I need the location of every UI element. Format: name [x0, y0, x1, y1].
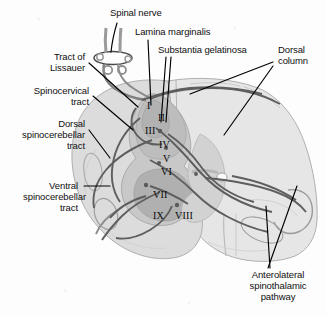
label-ventral-spinocerebellar-line3: tract: [0, 203, 78, 214]
label-dorsal-column-line1: Dorsal: [278, 45, 305, 56]
lamina-numeral-vi: VI: [161, 167, 172, 177]
label-spinocervical-tract-line2: tract: [0, 97, 89, 108]
label-anterolateral-line1: Anterolateral: [234, 270, 322, 281]
lamina-numeral-vii: VII: [153, 190, 167, 200]
label-ventral-spinocerebellar-line1: Ventral: [0, 181, 78, 192]
label-anterolateral-line2: spinothalamic: [234, 281, 322, 292]
label-dorsal-column-line2: column: [278, 56, 308, 67]
label-tract-of-lissauer-line1: Tract of: [0, 52, 85, 63]
label-spinocervical-tract-line1: Spinocervical: [0, 86, 89, 97]
label-dorsal-spinocerebellar-line1: Dorsal: [0, 119, 85, 130]
lamina-numeral-ix: IX: [153, 211, 164, 221]
label-ventral-spinocerebellar-line2: spinocerebellar: [0, 192, 86, 203]
label-dorsal-spinocerebellar-line2: spinocerebellar: [0, 130, 85, 141]
lamina-numeral-ii: II: [158, 113, 165, 123]
label-spinal-nerve: Spinal nerve: [110, 8, 162, 19]
label-anterolateral-line3: pathway: [234, 292, 322, 303]
leader-spinal-nerve: [111, 23, 117, 52]
label-lamina-marginalis: Lamina marginalis: [135, 27, 210, 38]
label-tract-of-lissauer-line2: Lissauer: [0, 63, 85, 74]
label-substantia-gelatinosa: Substantia gelatinosa: [158, 45, 247, 56]
figure-container: Spinal nerve Lamina marginalis Substanti…: [0, 0, 326, 316]
lamina-numeral-i: I: [147, 101, 151, 111]
label-dorsal-spinocerebellar-line3: tract: [0, 141, 85, 152]
lamina-numeral-viii: VIII: [175, 211, 193, 221]
lamina-numeral-iv: IV: [159, 140, 170, 150]
lamina-numeral-iii: III: [145, 126, 156, 136]
lamina-numeral-v: V: [163, 154, 170, 164]
